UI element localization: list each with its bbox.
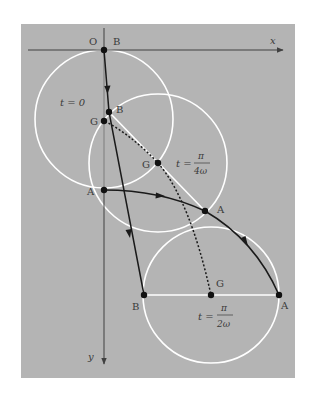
label-b-end: B: [132, 301, 139, 312]
point-a-end: [276, 292, 282, 298]
label-g-end: G: [216, 278, 224, 289]
point-a-t0: [101, 187, 107, 193]
label-t-half-denominator: 2ω: [216, 319, 231, 329]
label-t-quarter-numerator: π: [197, 151, 205, 161]
point-g-mid: [155, 160, 161, 166]
label-t-half-prefix: t =: [198, 311, 214, 322]
point-b-end: [141, 292, 147, 298]
point-g-end: [208, 292, 214, 298]
label-b-top: B: [113, 36, 120, 47]
point-b-mid: [106, 109, 112, 115]
point-a-mid: [202, 208, 208, 214]
point-origin-b: [101, 47, 107, 53]
label-t-half-numerator: π: [220, 303, 228, 313]
label-b-mid: B: [116, 104, 123, 115]
point-g-t0: [101, 118, 107, 124]
label-a-t0: A: [86, 186, 95, 197]
label-a-end: A: [280, 300, 289, 311]
rolling-disk-diagram: O B x y t = 0 B G G A A B G A t = π 4ω t…: [0, 0, 315, 399]
label-origin: O: [89, 36, 97, 47]
label-t-quarter-prefix: t =: [176, 158, 192, 169]
label-g-mid: G: [142, 159, 150, 170]
label-x-axis: x: [270, 35, 276, 46]
label-t0: t = 0: [60, 97, 86, 108]
label-g-t0: G: [90, 116, 98, 127]
label-y-axis: y: [87, 351, 94, 362]
label-t-quarter-denominator: 4ω: [193, 166, 208, 176]
label-a-mid: A: [216, 204, 225, 215]
